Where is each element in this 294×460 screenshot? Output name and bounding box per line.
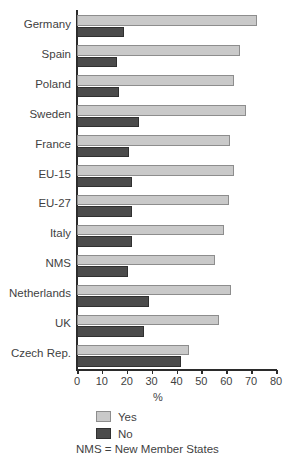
category-label: EU-27 bbox=[0, 197, 71, 209]
x-axis-tick bbox=[152, 370, 154, 374]
x-axis-tick bbox=[127, 370, 129, 374]
x-axis-tick-label: 50 bbox=[189, 375, 213, 387]
legend-label-no: No bbox=[118, 428, 133, 440]
x-axis-title: % bbox=[0, 391, 294, 403]
x-axis-tick-label: 30 bbox=[140, 375, 164, 387]
category-label: Italy bbox=[0, 227, 71, 239]
category-label: Poland bbox=[0, 78, 71, 90]
legend-item-yes: Yes bbox=[96, 409, 137, 424]
category-label: Germany bbox=[0, 18, 71, 30]
x-axis-tick-label: 20 bbox=[115, 375, 139, 387]
chart-legend: Yes No bbox=[96, 409, 137, 443]
category-label: Czech Rep. bbox=[0, 347, 71, 359]
x-axis-tick-label: 60 bbox=[214, 375, 238, 387]
legend-footnote: NMS = New Member States bbox=[76, 443, 219, 455]
category-label: EU-15 bbox=[0, 168, 71, 180]
x-axis-tick bbox=[102, 370, 104, 374]
x-axis-tick bbox=[251, 370, 253, 374]
x-axis-tick bbox=[226, 370, 228, 374]
x-axis-tick-label: 40 bbox=[165, 375, 189, 387]
x-axis-tick-label: 80 bbox=[264, 375, 288, 387]
category-label: Netherlands bbox=[0, 287, 71, 299]
legend-swatch-no-icon bbox=[96, 428, 111, 439]
legend-swatch-yes-icon bbox=[96, 411, 111, 422]
category-label: UK bbox=[0, 317, 71, 329]
x-axis-tick bbox=[201, 370, 203, 374]
x-axis-tick bbox=[177, 370, 179, 374]
x-axis-tick-label: 70 bbox=[239, 375, 263, 387]
x-axis-tick bbox=[276, 370, 278, 374]
legend-item-no: No bbox=[96, 426, 137, 441]
x-axis-tick bbox=[77, 370, 79, 374]
category-label: NMS bbox=[0, 257, 71, 269]
legend-label-yes: Yes bbox=[118, 411, 137, 423]
bar-chart-figure: GermanySpainPolandSwedenFranceEU-15EU-27… bbox=[0, 0, 294, 460]
x-axis-tick-label: 0 bbox=[65, 375, 89, 387]
category-label: Sweden bbox=[0, 108, 71, 120]
category-label: Spain bbox=[0, 48, 71, 60]
category-label: France bbox=[0, 138, 71, 150]
x-axis-tick-label: 10 bbox=[90, 375, 114, 387]
